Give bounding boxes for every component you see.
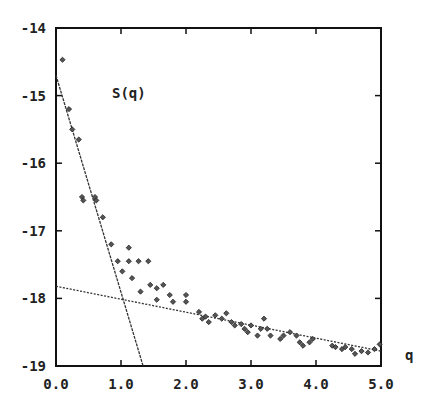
data-point-marker <box>170 299 175 304</box>
data-point-marker <box>248 323 253 328</box>
y-tick-label: -18 <box>21 290 46 306</box>
data-point-marker <box>255 333 260 338</box>
chart: 0.01.02.03.04.05.0 -14-15-16-17-18-19 S(… <box>0 0 433 396</box>
x-axis-label: q <box>405 347 413 363</box>
data-point-marker <box>126 259 131 264</box>
data-point-marker <box>70 127 75 132</box>
data-point-marker <box>129 276 134 281</box>
y-tick-label: -16 <box>21 155 46 171</box>
fit-lines <box>56 75 381 366</box>
data-point-marker <box>154 286 159 291</box>
x-tick-label: 4.0 <box>303 376 328 392</box>
shallow-fit-line <box>56 286 381 351</box>
data-points <box>60 57 382 356</box>
x-tick-labels: 0.01.02.03.04.05.0 <box>43 376 393 392</box>
data-point-marker <box>349 347 354 352</box>
x-tick-label: 1.0 <box>108 376 133 392</box>
data-point-marker <box>287 330 292 335</box>
y-tick-label: -15 <box>21 88 46 104</box>
data-point-marker <box>161 282 166 287</box>
data-point-marker <box>120 269 125 274</box>
x-tick-label: 5.0 <box>368 376 393 392</box>
data-point-marker <box>219 316 224 321</box>
data-point-marker <box>372 347 377 352</box>
data-point-marker <box>352 351 357 356</box>
x-tick-label: 2.0 <box>173 376 198 392</box>
data-point-marker <box>261 316 266 321</box>
data-point-marker <box>154 297 159 302</box>
data-point-marker <box>213 313 218 318</box>
data-point-marker <box>126 245 131 250</box>
data-point-marker <box>167 292 172 297</box>
data-point-marker <box>109 242 114 247</box>
y-tick-label: -14 <box>21 20 46 36</box>
data-point-marker <box>265 326 270 331</box>
data-point-marker <box>76 137 81 142</box>
data-point-marker <box>359 349 364 354</box>
data-point-marker <box>148 282 153 287</box>
y-tick-label: -19 <box>21 358 46 374</box>
data-point-marker <box>365 350 370 355</box>
data-point-marker <box>100 215 105 220</box>
series-annotation: S(q) <box>112 85 146 101</box>
data-point-marker <box>146 259 151 264</box>
x-tick-label: 0.0 <box>43 376 68 392</box>
y-tick-labels: -14-15-16-17-18-19 <box>21 20 46 374</box>
data-point-marker <box>183 292 188 297</box>
data-point-marker <box>183 299 188 304</box>
data-point-marker <box>268 333 273 338</box>
steep-fit-line <box>56 75 143 366</box>
data-point-marker <box>196 309 201 314</box>
data-point-marker <box>60 57 65 62</box>
y-tick-label: -17 <box>21 223 46 239</box>
data-point-marker <box>115 259 120 264</box>
data-point-marker <box>206 319 211 324</box>
data-point-marker <box>138 289 143 294</box>
data-point-marker <box>224 311 229 316</box>
x-tick-label: 3.0 <box>238 376 263 392</box>
axis-ticks <box>56 28 381 366</box>
plot-frame <box>56 28 381 366</box>
data-point-marker <box>136 259 141 264</box>
